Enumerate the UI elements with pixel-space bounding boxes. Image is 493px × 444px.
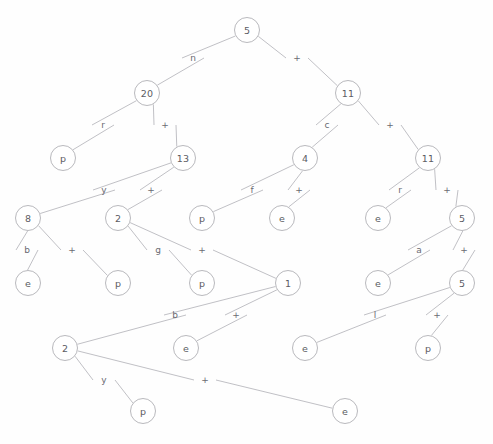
tree-edge-segment-upper xyxy=(92,101,136,125)
tree-edge-segment-lower xyxy=(73,125,114,150)
tree-edge-segment-upper xyxy=(435,169,436,190)
tree-node[interactable]: 20 xyxy=(134,80,160,106)
tree-edge-segment-lower xyxy=(77,315,186,344)
tree-node[interactable]: 5 xyxy=(234,17,260,43)
tree-node[interactable]: p xyxy=(415,335,441,361)
edge-label: l xyxy=(374,311,377,320)
tree-edge-segment-lower xyxy=(157,58,204,85)
tree-node[interactable]: 2 xyxy=(105,205,131,231)
tree-edge-segment-upper xyxy=(75,356,93,380)
tree-edge-segment-upper xyxy=(389,168,419,190)
tree-edge-segment-upper xyxy=(258,36,286,58)
edge-label: b xyxy=(24,246,30,255)
tree-edge-segment-lower xyxy=(115,380,133,403)
tree-node[interactable]: 13 xyxy=(170,145,196,171)
tree-edge-segment-lower xyxy=(176,125,177,147)
tree-edge-segment-lower xyxy=(83,250,107,275)
edge-label: b xyxy=(172,311,178,320)
tree-node[interactable]: 5 xyxy=(449,270,475,296)
tree-node[interactable]: e xyxy=(292,335,318,361)
edge-label: + xyxy=(147,186,155,195)
tree-node[interactable]: 8 xyxy=(15,205,41,231)
tree-diagram-canvas: 52011p1341182pee5epp1e52eeppe n+r+c+y+f+… xyxy=(0,0,493,444)
tree-edge-segment-lower xyxy=(456,190,458,207)
tree-node[interactable]: 4 xyxy=(292,145,318,171)
tree-node[interactable]: 11 xyxy=(415,145,441,171)
edge-label: a xyxy=(416,246,422,255)
tree-edge-segment-lower xyxy=(169,250,192,275)
edge-label: y xyxy=(101,186,106,195)
edge-label: + xyxy=(293,54,301,63)
edge-label: + xyxy=(68,246,76,255)
tree-node[interactable]: e xyxy=(365,270,391,296)
edge-label: + xyxy=(232,311,240,320)
tree-node[interactable]: e xyxy=(269,205,295,231)
tree-node[interactable]: e xyxy=(173,335,199,361)
tree-edge-segment-lower xyxy=(213,190,263,212)
tree-edge-segment-lower xyxy=(216,380,332,408)
tree-edge-segment-upper xyxy=(140,167,174,190)
tree-edge-segment-lower xyxy=(308,58,337,86)
tree-node[interactable]: p xyxy=(189,205,215,231)
tree-node[interactable]: 2 xyxy=(52,335,78,361)
tree-edge-segment-lower xyxy=(213,250,276,278)
tree-edge-segment-upper xyxy=(241,165,294,190)
tree-edge-segment-upper xyxy=(358,101,379,125)
tree-edge-segment-upper xyxy=(128,226,147,250)
edge-label: + xyxy=(201,376,209,385)
edge-label: n xyxy=(190,54,196,63)
tree-edge-segment-upper xyxy=(39,226,61,250)
edge-label: + xyxy=(460,246,468,255)
tree-node[interactable]: 5 xyxy=(449,205,475,231)
tree-edge-segment-lower xyxy=(401,125,418,149)
edge-label: + xyxy=(433,311,441,320)
tree-node[interactable]: e xyxy=(15,270,41,296)
edge-label: + xyxy=(295,186,303,195)
tree-edges-layer xyxy=(0,0,493,444)
edge-label: c xyxy=(325,121,330,130)
edge-label: + xyxy=(198,246,206,255)
tree-node[interactable]: 1 xyxy=(275,270,301,296)
edge-label: + xyxy=(443,186,451,195)
tree-edge-segment-lower xyxy=(388,250,430,275)
edge-label: g xyxy=(155,246,161,255)
tree-node[interactable]: p xyxy=(189,270,215,296)
tree-edge-segment-upper xyxy=(153,104,154,125)
tree-node[interactable]: p xyxy=(50,145,76,171)
tree-node[interactable]: p xyxy=(130,398,156,424)
tree-node[interactable]: e xyxy=(332,398,358,424)
tree-edge-segment-upper xyxy=(164,287,275,315)
tree-edge xyxy=(386,168,419,208)
tree-node[interactable]: e xyxy=(365,205,391,231)
tree-node[interactable]: p xyxy=(105,270,131,296)
tree-edge xyxy=(157,36,235,85)
tree-node[interactable]: 11 xyxy=(335,80,361,106)
edge-label: y xyxy=(101,376,106,385)
tree-edge-segment-upper xyxy=(408,226,452,250)
edge-label: f xyxy=(250,186,253,195)
edge-label: + xyxy=(161,121,169,130)
tree-edge-segment-lower xyxy=(128,190,162,210)
edge-label: r xyxy=(101,121,105,130)
edge-label: r xyxy=(398,186,402,195)
edge-label: + xyxy=(386,121,394,130)
